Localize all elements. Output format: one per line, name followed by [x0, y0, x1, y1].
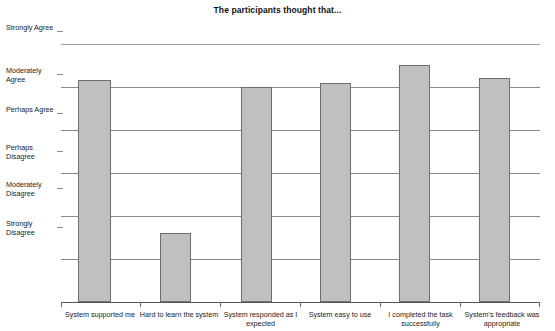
y-tick-text-1: Moderately Agree: [6, 66, 42, 84]
bar-system-easy-to-use: [320, 83, 351, 302]
y-tick-text-4: Moderately Disagree: [6, 180, 42, 198]
bar-i-completed-the-task-successfully: [399, 65, 430, 302]
x-axis-tick-mark: [380, 302, 381, 307]
x-tick-text-3: System easy to use: [309, 310, 372, 319]
plot-area: [61, 31, 540, 302]
x-axis-label-5: System's feedback was appropriate: [459, 310, 545, 328]
x-axis-tick-mark: [460, 302, 461, 307]
y-axis-labels: Strongly Agree Moderately Agree Perhaps …: [2, 0, 58, 331]
x-axis-label-3: System easy to use: [298, 310, 382, 319]
x-axis-label-4: I completed the task successfully: [377, 310, 464, 328]
y-axis-tick-label: Perhaps Agree: [6, 106, 58, 115]
gridline-strongly-agree: [61, 44, 540, 45]
x-tick-text-5: System's feedback was appropriate: [465, 310, 540, 328]
x-tick-text-0: System supported me: [65, 310, 135, 319]
y-tick-text-0: Strongly Agree: [6, 23, 53, 32]
gridline-moderately-disagree: [61, 216, 540, 217]
gridline-strongly-disagree: [61, 259, 540, 260]
y-axis-tick-label: Strongly Disagree: [6, 220, 58, 237]
x-axis-tick-mark: [539, 302, 540, 307]
gridline-perhaps-agree: [61, 130, 540, 131]
x-axis-label-2: System responded as I expected: [216, 310, 305, 328]
y-axis-tick-label: Perhaps Disagree: [6, 144, 58, 161]
x-tick-text-1: Hard to learn the system: [140, 310, 218, 319]
y-axis-tick-label: Moderately Disagree: [6, 181, 58, 198]
y-axis-tick-label: Strongly Agree: [6, 24, 58, 33]
x-axis-label-0: System supported me: [58, 310, 142, 319]
gridline-moderately-agree: [61, 87, 540, 88]
x-axis-tick-mark: [220, 302, 221, 307]
y-tick-text-2: Perhaps Agree: [6, 105, 54, 114]
x-tick-text-2: System responded as I expected: [224, 310, 298, 328]
bar-system-responded-as-i-expected: [241, 87, 272, 302]
y-tick-text-3: Perhaps Disagree: [6, 143, 35, 161]
y-tick-text-5: Strongly Disagree: [6, 219, 35, 237]
bar-hard-to-learn-the-system: [160, 233, 191, 302]
x-axis-tick-mark: [300, 302, 301, 307]
bar-systems-feedback-was-appropriate: [479, 78, 510, 302]
bar-chart: The participants thought that... Strongl…: [0, 0, 555, 331]
y-axis-tick-label: Moderately Agree: [6, 67, 58, 84]
bar-system-supported-me: [78, 80, 111, 302]
x-axis-label-1: Hard to learn the system: [137, 310, 221, 319]
chart-title: The participants thought that...: [0, 5, 555, 15]
x-axis-tick-mark: [61, 302, 62, 307]
gridline-perhaps-disagree: [61, 173, 540, 174]
x-axis-tick-mark: [140, 302, 141, 307]
x-tick-text-4: I completed the task successfully: [388, 310, 452, 328]
